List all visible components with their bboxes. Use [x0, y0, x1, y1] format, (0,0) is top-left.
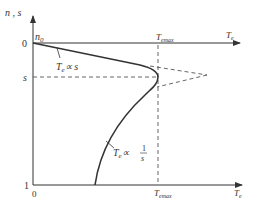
origin-bottom-label: 0 — [32, 189, 37, 199]
curve1-label: Te∝ s — [56, 61, 78, 74]
y-axis-label: n , s — [5, 7, 22, 18]
temax-top-label: Temax — [156, 32, 174, 43]
curve2-label: Te∝ — [113, 147, 130, 160]
torque-slip-diagram: n , s 0 s 1 0 n0 Temax Te Temax Te Te∝ s… — [0, 0, 256, 212]
torque-slip-curve — [33, 43, 158, 185]
s-tick-label: s — [23, 72, 27, 83]
curve1-leader — [57, 48, 60, 58]
tangent-upper-dashed — [150, 66, 207, 75]
bottom-te-axis-label: Te — [234, 188, 242, 199]
frac-numerator: 1 — [142, 144, 146, 153]
diagram-canvas: n , s 0 s 1 0 n0 Temax Te Temax Te Te∝ s… — [0, 0, 256, 212]
origin-top-label: 0 — [22, 38, 27, 49]
top-te-axis-label: Te — [226, 30, 234, 41]
n0-label: n0 — [35, 31, 44, 44]
frac-denominator: s — [141, 154, 144, 163]
tangent-lower-dashed — [157, 75, 207, 87]
temax-bottom-label: Temax — [154, 188, 172, 199]
one-tick-label: 1 — [24, 180, 29, 191]
